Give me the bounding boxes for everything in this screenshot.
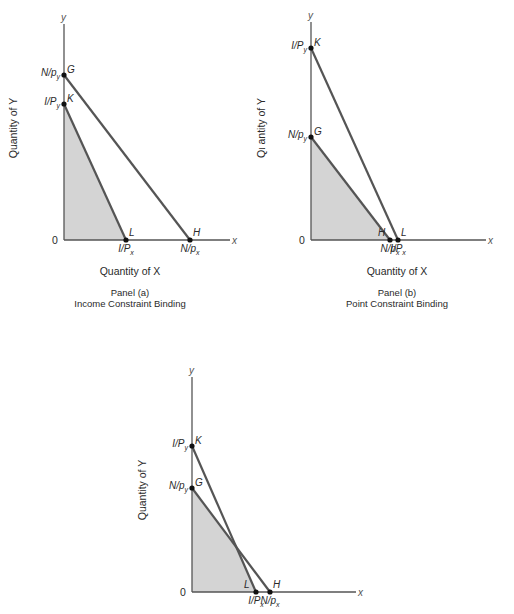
point-L [253,589,258,594]
panel-caption: Panel (b) [378,287,417,298]
point-label-L: L [401,227,407,238]
point-label-G: G [195,477,203,488]
tick-label-G: N/py [169,480,189,494]
y-axis-symbol: y [188,365,195,376]
point-G [61,72,66,77]
point-label-H: H [273,579,281,590]
tick-label-K: I/Py [172,438,188,452]
tick-label-G: N/py [288,129,308,143]
panel-a: yx0GN/pyKI/PyLI/PxHN/pxQuantity of XQuan… [7,12,238,309]
feasible-region [192,488,256,592]
origin-label: 0 [52,234,58,246]
panel-b: yx0KI/PyGN/pyHN/pxLI/PxQuantity of XQι a… [255,10,494,309]
point-label-K: K [314,37,322,48]
point-label-L: L [244,579,250,590]
origin-label: 0 [180,586,186,598]
point-H [267,589,272,594]
panel-caption: Panel (a) [111,287,150,298]
tick-label-G: N/py [41,67,61,81]
point-G [189,485,194,490]
x-axis-title: Quantity of X [100,265,161,277]
point-K [308,45,313,50]
budget-constraint-diagram: yx0GN/pyKI/PyLI/PxHN/pxQuantity of XQuan… [0,0,514,614]
x-axis-symbol: x [487,235,494,246]
point-L [123,237,128,242]
point-label-K: K [195,435,203,446]
y-axis-title: Quantity of Y [7,98,19,159]
point-K [61,101,66,106]
point-G [308,134,313,139]
point-label-H: H [378,227,386,238]
point-label-L: L [129,227,135,238]
point-H [187,237,192,242]
point-label-G: G [314,126,322,137]
point-H [387,237,392,242]
tick-label-H: N/px [180,243,200,256]
y-axis-symbol: y [60,12,67,23]
y-axis-title: Qι antity of Y [255,98,267,158]
x-axis-symbol: x [357,587,364,598]
point-L [395,237,400,242]
panel-subtitle: Point Constraint Binding [346,298,448,309]
y-axis-title: Quantity of Y [136,460,148,521]
point-label-H: H [193,227,201,238]
origin-label: 0 [299,234,305,246]
tick-label-K: I/Py [44,96,60,110]
y-axis-symbol: y [307,10,314,21]
point-K [189,443,194,448]
point-label-K: K [67,93,75,104]
x-axis-symbol: x [231,235,238,246]
x-axis-title: Quantity of X [367,265,428,277]
panel-c: yx0KI/PyGN/pyLI/PxHN/pxQuantity of Y [136,365,364,608]
panel-subtitle: Income Constraint Binding [74,298,185,309]
tick-label-K: I/Py [291,40,307,54]
point-label-G: G [67,64,75,75]
tick-label-L: I/Px [118,243,134,256]
